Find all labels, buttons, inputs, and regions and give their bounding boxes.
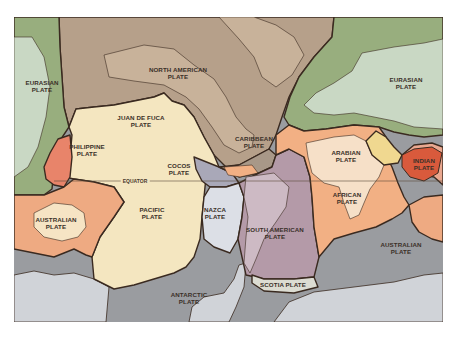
label-scotia: SCOTIA PLATE	[260, 281, 306, 288]
tectonic-plate-map: EURASIAN PLATE NORTH AMERICAN PLATE JUAN…	[14, 17, 443, 322]
label-philippine: PHILIPPINE PLATE	[69, 143, 104, 157]
label-australian-east: AUSTRALIAN PLATE	[380, 241, 421, 255]
label-north-american: NORTH AMERICAN PLATE	[149, 66, 207, 80]
label-equator: EQUATOR	[121, 178, 150, 184]
label-caribbean: CARIBBEAN PLATE	[235, 135, 273, 149]
label-eurasian-west: EURASIAN PLATE	[25, 79, 58, 93]
label-nazca: NAZCA PLATE	[204, 206, 226, 220]
label-eurasian-east: EURASIAN PLATE	[389, 76, 422, 90]
label-antarctic: ANTARCTIC PLATE	[171, 291, 208, 305]
map-graphic	[14, 17, 443, 322]
label-juan-de-fuca: JUAN DE FUCA PLATE	[117, 114, 164, 128]
label-pacific: PACIFIC PLATE	[140, 206, 165, 220]
label-cocos: COCOS PLATE	[167, 162, 190, 176]
label-indian: INDIAN PLATE	[413, 157, 435, 171]
label-african: AFRICAN PLATE	[333, 191, 362, 205]
label-arabian: ARABIAN PLATE	[331, 149, 360, 163]
label-south-american: SOUTH AMERICAN PLATE	[246, 226, 304, 240]
label-australian-west: AUSTRALIAN PLATE	[35, 216, 76, 230]
